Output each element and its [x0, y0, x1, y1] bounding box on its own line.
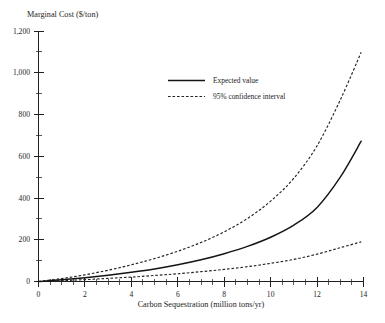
legend: Expected value 95% confidence interval: [168, 76, 285, 101]
x-axis-title: Carbon Sequestration (million tons/yr): [138, 300, 265, 309]
y-axis-title: Marginal Cost ($/ton): [27, 10, 99, 19]
x-tick-label: 6: [176, 290, 180, 299]
y-tick-label: 600: [19, 152, 31, 161]
y-tick-label: 800: [19, 110, 31, 119]
curve-expected-value: [39, 141, 362, 281]
x-tick-label: 2: [83, 290, 87, 299]
x-tick-label: 0: [37, 290, 41, 299]
y-tick-label: 1,000: [13, 68, 30, 77]
x-tick-label: 10: [267, 290, 275, 299]
y-tick-label: 0: [26, 277, 30, 286]
y-tick-label: 1,200: [13, 27, 30, 36]
marginal-cost-chart: Marginal Cost ($/ton) 02004006008001,000…: [0, 0, 385, 323]
x-axis-tick-labels: 02468101214: [37, 290, 368, 299]
y-tick-label: 400: [19, 194, 31, 203]
y-axis-tick-labels: 02004006008001,0001,200: [13, 27, 30, 287]
x-tick-label: 4: [129, 290, 133, 299]
x-tick-label: 12: [313, 290, 321, 299]
legend-label-confidence-interval: 95% confidence interval: [213, 92, 285, 101]
x-tick-label: 14: [360, 290, 368, 299]
curve-confidence-lower: [39, 242, 362, 282]
curve-confidence-upper: [39, 52, 362, 281]
legend-label-expected-value: Expected value: [213, 76, 259, 85]
y-tick-label: 200: [19, 235, 31, 244]
chart-figure: Marginal Cost ($/ton) 02004006008001,000…: [0, 0, 385, 323]
x-tick-label: 8: [222, 290, 226, 299]
